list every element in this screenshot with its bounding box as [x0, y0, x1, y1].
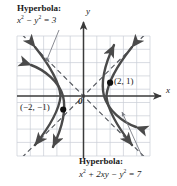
callout-bottom-equation: x2 + 2xy − y2 = 7: [79, 170, 141, 179]
y-axis-label: y: [86, 7, 90, 16]
point-label-neg2-neg1: (−2, −1): [20, 103, 50, 112]
math-figure: Hyperbola: x2 − y2 = 3 Hyperbola: x2 + 2…: [0, 0, 177, 186]
point-label-2-1: (2, 1): [114, 77, 134, 86]
point-dot-2-1: [107, 80, 113, 86]
callout-bottom-title: Hyperbola:: [79, 157, 123, 166]
x-axis-label: x: [166, 86, 170, 95]
callout-top-equation: x2 − y2 = 3: [17, 16, 56, 25]
point-dot-neg2-neg1: [60, 106, 66, 112]
callout-top-equation-text: x2 − y2 = 3: [17, 15, 56, 25]
origin-label: 0: [78, 97, 83, 106]
callout-bottom-equation-text: x2 + 2xy − y2 = 7: [79, 169, 141, 179]
callout-top-title: Hyperbola:: [17, 4, 61, 13]
